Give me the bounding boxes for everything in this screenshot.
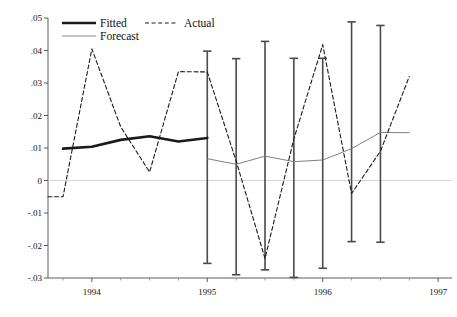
y-tick-label: .03: [31, 78, 43, 88]
legend-label-actual: Actual: [184, 17, 215, 29]
y-tick-label: -.02: [28, 241, 42, 251]
x-tick-label: 1997: [429, 287, 448, 297]
x-tick-label: 1996: [314, 287, 333, 297]
chart-background: [0, 0, 457, 317]
x-tick-label: 1994: [83, 287, 102, 297]
legend-label-fitted: Fitted: [100, 17, 127, 29]
y-axis-tick-labels: .05.04.03.02.010-.01-.02-.03: [28, 13, 43, 283]
y-tick-label: -.03: [28, 273, 43, 283]
y-tick-label: .02: [31, 111, 42, 121]
y-tick-label: .01: [31, 143, 42, 153]
forecast-chart: .05.04.03.02.010-.01-.02-.03 19941995199…: [0, 0, 457, 317]
y-tick-label: -.01: [28, 208, 42, 218]
chart-canvas: .05.04.03.02.010-.01-.02-.03 19941995199…: [0, 0, 457, 317]
x-tick-label: 1995: [198, 287, 217, 297]
y-tick-label: .05: [31, 13, 43, 23]
y-tick-label: .04: [31, 46, 43, 56]
y-tick-label: 0: [38, 176, 43, 186]
legend-label-forecast: Forecast: [100, 30, 140, 42]
